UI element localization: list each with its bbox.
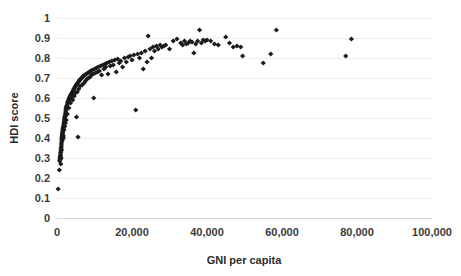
data-point [105,71,110,76]
x-tick-label: 20,000 [115,226,149,238]
data-point [212,41,217,46]
data-point [191,50,196,55]
data-point [57,167,62,172]
data-point [91,95,96,100]
chart-canvas: 00.10.20.30.40.50.60.70.80.91 020,00040,… [0,0,461,276]
data-point [74,114,79,119]
y-tick-label: 1 [44,12,50,24]
data-point [144,59,149,64]
x-tick-label: 100,000 [412,226,452,238]
y-axis-title: HDI score [8,92,20,143]
data-point [56,186,61,191]
scatter-chart: 00.10.20.30.40.50.60.70.80.91 020,00040,… [0,0,461,276]
data-point [274,27,279,32]
y-tick-label: 0.2 [35,172,50,184]
data-point [234,43,239,48]
x-axis-tick-labels: 020,00040,00060,00080,000100,000 [54,226,452,238]
data-point [238,44,243,49]
data-point [349,36,354,41]
gridlines-group [57,18,432,218]
data-point [75,134,80,139]
x-tick-label: 80,000 [340,226,374,238]
data-point [216,42,221,47]
y-tick-label: 0.4 [35,132,51,144]
data-point [268,51,273,56]
data-point [149,55,154,60]
x-tick-label: 40,000 [190,226,224,238]
data-point [208,38,213,43]
y-tick-label: 0.5 [35,112,50,124]
y-tick-label: 0.9 [35,32,50,44]
y-tick-label: 0.7 [35,72,50,84]
y-tick-label: 0.1 [35,192,50,204]
y-tick-label: 0.8 [35,52,50,64]
data-point [261,60,266,65]
data-point [141,66,146,71]
y-tick-label: 0.6 [35,92,50,104]
x-tick-label: 60,000 [265,226,299,238]
x-axis-title: GNI per capita [207,254,282,266]
data-point [231,44,236,49]
data-point [114,69,119,74]
data-point [167,46,172,51]
y-tick-label: 0.3 [35,152,50,164]
data-point [131,52,136,57]
data-point [223,34,228,39]
data-points-group [56,27,354,191]
y-tick-label: 0 [44,212,50,224]
x-tick-label: 0 [54,226,60,238]
data-point [197,27,202,32]
data-point [227,40,232,45]
y-axis-tick-labels: 00.10.20.30.40.50.60.70.80.91 [35,12,51,224]
data-point [120,64,125,69]
data-point [99,72,104,77]
data-point [133,107,138,112]
